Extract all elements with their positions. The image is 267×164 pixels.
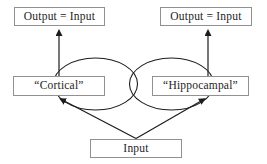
node-cortical: “Cortical” xyxy=(13,76,105,96)
node-hippocampal: “Hippocampal” xyxy=(152,76,249,96)
node-input: Input xyxy=(90,139,182,158)
arrow-input-to-hippocampal xyxy=(136,99,205,139)
arrow-input-to-cortical xyxy=(61,99,137,139)
node-output-left: Output = Input xyxy=(14,7,105,26)
node-output-right: Output = Input xyxy=(160,7,252,26)
network-diagram: Output = Input Output = Input “Cortical”… xyxy=(0,0,267,164)
